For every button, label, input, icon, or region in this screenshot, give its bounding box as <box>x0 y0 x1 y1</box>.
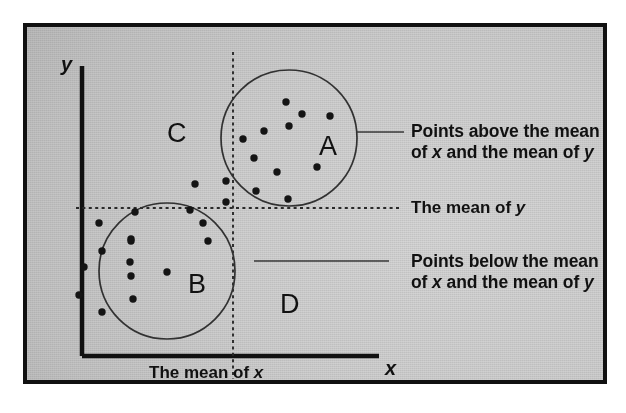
data-point <box>250 154 257 161</box>
data-point <box>273 168 280 175</box>
mean-of-y-caption: The mean of y <box>411 198 525 218</box>
plot-area: y x C A B D The mean of x The mean of y … <box>27 27 603 380</box>
mean-of-y-caption-prefix: The mean of <box>411 198 516 217</box>
data-point <box>127 272 134 279</box>
data-point <box>98 247 105 254</box>
quadrant-label-d: D <box>280 289 300 321</box>
annotation-below-line2-a: of <box>411 272 432 292</box>
figure-frame: y x C A B D The mean of x The mean of y … <box>23 23 607 384</box>
data-point <box>284 195 291 202</box>
quadrant-label-a: A <box>319 131 337 163</box>
annotation-points-above: Points above the mean of x and the mean … <box>411 121 600 162</box>
data-point <box>199 219 206 226</box>
annotation-above-line2: of x and the mean of y <box>411 142 600 163</box>
data-point <box>252 187 259 194</box>
data-point <box>127 237 134 244</box>
data-point <box>186 206 193 213</box>
data-point <box>75 291 82 298</box>
data-point <box>298 110 305 117</box>
data-point <box>222 177 229 184</box>
annotation-below-line2-var1: x <box>432 272 442 292</box>
mean-of-x-caption-prefix: The mean of <box>149 363 254 382</box>
mean-reference-lines <box>76 52 402 379</box>
annotation-above-line2-var2: y <box>584 142 594 162</box>
quadrant-label-b: B <box>188 269 206 301</box>
data-point <box>260 127 267 134</box>
annotation-points-below: Points below the mean of x and the mean … <box>411 251 599 292</box>
data-point <box>129 295 136 302</box>
figure-canvas: y x C A B D The mean of x The mean of y … <box>0 0 626 413</box>
annotation-above-line1: Points above the mean <box>411 121 600 142</box>
data-point <box>313 163 320 170</box>
annotation-below-line2-var2: y <box>584 272 594 292</box>
data-point <box>95 219 102 226</box>
data-point <box>285 122 292 129</box>
annotation-above-line2-b: and the mean of <box>442 142 584 162</box>
data-point <box>204 237 211 244</box>
scatter-points-a <box>191 98 333 205</box>
annotation-below-line2: of x and the mean of y <box>411 272 599 293</box>
annotation-below-line2-b: and the mean of <box>442 272 584 292</box>
data-point <box>222 198 229 205</box>
annotation-above-line2-var1: x <box>432 142 442 162</box>
data-point <box>239 135 246 142</box>
x-axis-label: x <box>385 357 396 381</box>
data-point <box>80 263 87 270</box>
y-axis-label: y <box>61 53 72 77</box>
data-point <box>131 208 138 215</box>
annotation-above-line2-a: of <box>411 142 432 162</box>
mean-of-y-caption-variable: y <box>516 198 525 217</box>
axis-lines <box>82 66 379 356</box>
quadrant-label-c: C <box>167 118 187 150</box>
mean-of-x-caption: The mean of x <box>149 363 263 383</box>
data-point <box>326 112 333 119</box>
data-point <box>126 258 133 265</box>
data-point <box>191 180 198 187</box>
data-point <box>163 268 170 275</box>
data-point <box>98 308 105 315</box>
mean-of-x-caption-variable: x <box>254 363 263 382</box>
annotation-below-line1: Points below the mean <box>411 251 599 272</box>
data-point <box>282 98 289 105</box>
